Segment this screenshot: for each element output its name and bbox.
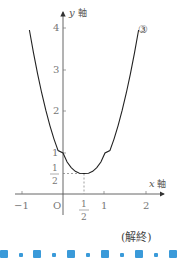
parabola-chart: y 軸 x 軸 ③ 4 3 2 1 1 2 −1 O 1 2 1 2	[0, 0, 179, 246]
curve-label: ③	[138, 23, 148, 36]
parabola-curve-line	[29, 30, 138, 174]
y-axis-kanji: 軸	[78, 7, 87, 18]
x-tick-label-1: 1	[101, 200, 107, 211]
y-tick-label-4: 4	[53, 22, 59, 33]
x-tick-label-2: 2	[143, 200, 149, 211]
origin-label: O	[53, 200, 61, 211]
y-half-numerator: 1	[52, 163, 58, 173]
parabola-curve	[29, 6, 138, 221]
y-tick-label-3: 3	[53, 64, 59, 75]
x-half-denominator: 2	[81, 212, 87, 222]
decorative-border-strip	[0, 247, 179, 260]
y-tick-label-1: 1	[52, 147, 58, 158]
x-axis-kanji: 軸	[157, 178, 166, 189]
x-tick-label-neg1: −1	[14, 200, 29, 211]
y-axis-label: y	[68, 7, 75, 18]
x-axis-label: x	[149, 178, 155, 189]
x-half-numerator: 1	[81, 199, 87, 209]
y-tick-label-2: 2	[53, 105, 59, 116]
end-of-solution-label: (解終)	[121, 228, 152, 244]
y-half-denominator: 2	[52, 176, 58, 186]
